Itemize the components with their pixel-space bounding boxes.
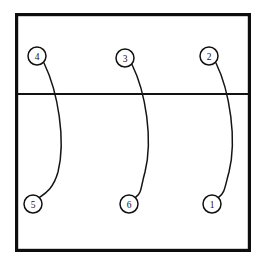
node-1: 1	[203, 195, 221, 213]
node-label-4: 4	[35, 52, 40, 62]
node-5: 5	[24, 195, 42, 213]
node-3: 3	[116, 49, 134, 67]
node-4: 4	[28, 47, 46, 65]
node-label-2: 2	[207, 52, 212, 62]
node-2: 2	[200, 47, 218, 65]
diagram-canvas: 4 3 2 5 6 1	[0, 0, 266, 274]
node-label-1: 1	[210, 200, 215, 210]
node-6: 6	[120, 195, 138, 213]
node-label-3: 3	[123, 54, 128, 64]
node-label-6: 6	[127, 200, 132, 210]
node-label-5: 5	[31, 200, 36, 210]
line-diagram-svg: 4 3 2 5 6 1	[0, 0, 266, 274]
